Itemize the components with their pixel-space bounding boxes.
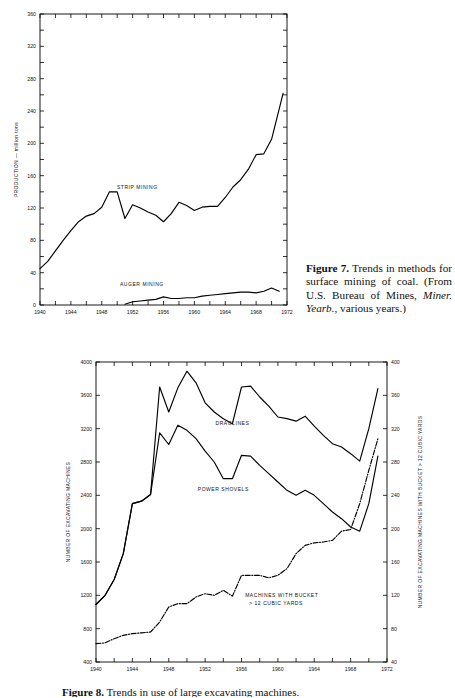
y-tick-label: 2000 — [80, 526, 92, 532]
y-tick-label: 40 — [30, 270, 36, 276]
figure-page: 1940194419481952195619601964196819720408… — [0, 0, 455, 698]
figure-8-chart: 1940194419481952195619601964196819724008… — [40, 348, 450, 678]
figure-8-caption: Figure 8. Trends in use of large excavat… — [62, 686, 442, 697]
y2-tick-label: 360 — [391, 392, 400, 398]
series-label-strip-mining: STRIP MINING — [117, 184, 158, 190]
figure-8-text-1: Trends in use of large excavating machin… — [104, 686, 299, 697]
series-label-bucket-line2: > 12 CUBIC YARDS — [249, 600, 303, 606]
y-axis-title: PRODUCTION — million tons — [13, 122, 19, 197]
y2-tick-label: 40 — [391, 659, 397, 665]
y-tick-label: 160 — [27, 173, 36, 179]
y-axis-title: NUMBER OF EXCAVATING MACHINES — [65, 461, 71, 562]
excavating-machines-line-chart: 1940194419481952195619601964196819724008… — [40, 348, 450, 678]
x-tick-label: 1944 — [127, 666, 139, 672]
x-tick-label: 1948 — [96, 309, 108, 315]
series-line-strip-mining — [40, 93, 283, 268]
plot-frame — [40, 14, 287, 305]
x-tick-label: 1948 — [163, 666, 175, 672]
x-tick-label: 1972 — [381, 666, 393, 672]
figure-7-caption: Figure 7. Trends in methods for surface … — [306, 262, 452, 316]
y-tick-label: 0 — [33, 302, 36, 308]
y-tick-label: 120 — [27, 205, 36, 211]
y2-tick-label: 400 — [391, 359, 400, 365]
series-label-bucket-line1: MACHINES WITH BUCKET — [245, 592, 318, 598]
x-tick-label: 1968 — [345, 666, 357, 672]
y2-tick-label: 120 — [391, 592, 400, 598]
y-tick-label: 320 — [27, 43, 36, 49]
x-tick-label: 1940 — [34, 309, 46, 315]
y-tick-label: 280 — [27, 76, 36, 82]
y-tick-label: 3600 — [80, 392, 92, 398]
y2-tick-label: 240 — [391, 492, 400, 498]
figure-7-number: Figure 7. — [306, 262, 349, 274]
x-tick-label: 1956 — [236, 666, 248, 672]
series-label-power-shovels: POWER SHOVELS — [198, 486, 249, 492]
series-line-machines-with-bucket-12-cubic-yards — [96, 439, 378, 644]
series-label-draglines: DRAGLINES — [215, 420, 249, 426]
y2-axis-title: NUMBER OF EXCAVATING MACHINES WITH BUCKE… — [417, 415, 423, 608]
y-tick-label: 3200 — [80, 426, 92, 432]
x-tick-label: 1960 — [272, 666, 284, 672]
y2-tick-label: 320 — [391, 426, 400, 432]
y-tick-label: 2400 — [80, 492, 92, 498]
x-tick-label: 1964 — [308, 666, 320, 672]
plot-frame — [96, 362, 387, 662]
figure-7-chart: 1940194419481952195619601964196819720408… — [2, 6, 302, 326]
figure-8-block: 1940194419481952195619601964196819724008… — [0, 330, 455, 698]
x-tick-label: 1972 — [281, 309, 293, 315]
series-line-power-shovels — [96, 425, 378, 604]
x-tick-label: 1952 — [199, 666, 211, 672]
x-tick-label: 1956 — [158, 309, 170, 315]
x-tick-label: 1952 — [127, 309, 139, 315]
figure-7-block: 1940194419481952195619601964196819720408… — [0, 0, 455, 330]
figure-7-text-2: , various years.) — [335, 302, 406, 314]
y2-tick-label: 200 — [391, 526, 400, 532]
y2-tick-label: 280 — [391, 459, 400, 465]
y-tick-label: 200 — [27, 140, 36, 146]
x-tick-label: 1940 — [90, 666, 102, 672]
y-tick-label: 360 — [27, 11, 36, 17]
x-tick-label: 1944 — [65, 309, 77, 315]
series-label-auger-mining: AUGER MINING — [120, 281, 164, 287]
y-tick-label: 400 — [83, 659, 92, 665]
x-tick-label: 1960 — [189, 309, 201, 315]
x-tick-label: 1968 — [250, 309, 262, 315]
x-tick-label: 1964 — [219, 309, 231, 315]
y-tick-label: 240 — [27, 108, 36, 114]
y-tick-label: 1600 — [80, 559, 92, 565]
y-tick-label: 1200 — [80, 592, 92, 598]
y-tick-label: 2800 — [80, 459, 92, 465]
production-line-chart: 1940194419481952195619601964196819720408… — [2, 6, 302, 326]
y2-tick-label: 80 — [391, 626, 397, 632]
y-tick-label: 4000 — [80, 359, 92, 365]
y-tick-label: 800 — [83, 626, 92, 632]
y2-tick-label: 160 — [391, 559, 400, 565]
y-tick-label: 80 — [30, 237, 36, 243]
figure-8-number: Figure 8. — [62, 686, 104, 697]
